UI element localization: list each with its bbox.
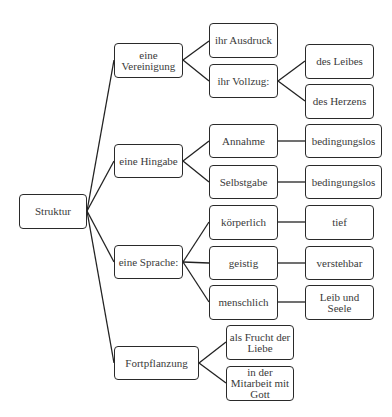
node-als-frucht-der-liebe: als Frucht der Liebe — [226, 325, 294, 360]
node-annahme: Annahme — [209, 124, 278, 158]
node-eine-hingabe: eine Hingabe — [114, 144, 183, 178]
node-mitarbeit-mit-gott: in der Mitarbeit mit Gott — [226, 366, 294, 401]
node-eine-vereinigung: eine Vereinigung — [114, 43, 183, 78]
node-ihr-ausdruck: ihr Ausdruck — [209, 23, 278, 58]
node-koerperlich: körperlich — [209, 205, 278, 240]
node-struktur: Struktur — [19, 194, 87, 229]
node-tief: tief — [305, 205, 374, 240]
node-bedingungslos-1: bedingungslos — [305, 124, 382, 158]
node-ihr-vollzug: ihr Vollzug: — [209, 64, 278, 98]
node-fortpflanzung: Fortpflanzung — [114, 346, 199, 380]
node-selbstgabe: Selbstgabe — [209, 165, 278, 199]
node-menschlich: menschlich — [209, 285, 278, 320]
node-verstehbar: verstehbar — [305, 246, 374, 280]
node-des-herzens: des Herzens — [305, 84, 374, 119]
node-eine-sprache: eine Sprache: — [114, 245, 183, 279]
node-geistig: geistig — [209, 246, 278, 280]
node-leib-und-seele: Leib und Seele — [305, 285, 374, 320]
structure-tree-diagram: Struktur eine Vereinigung eine Hingabe e… — [0, 0, 392, 417]
node-bedingungslos-2: bedingungslos — [305, 165, 382, 199]
node-des-leibes: des Leibes — [305, 44, 374, 79]
